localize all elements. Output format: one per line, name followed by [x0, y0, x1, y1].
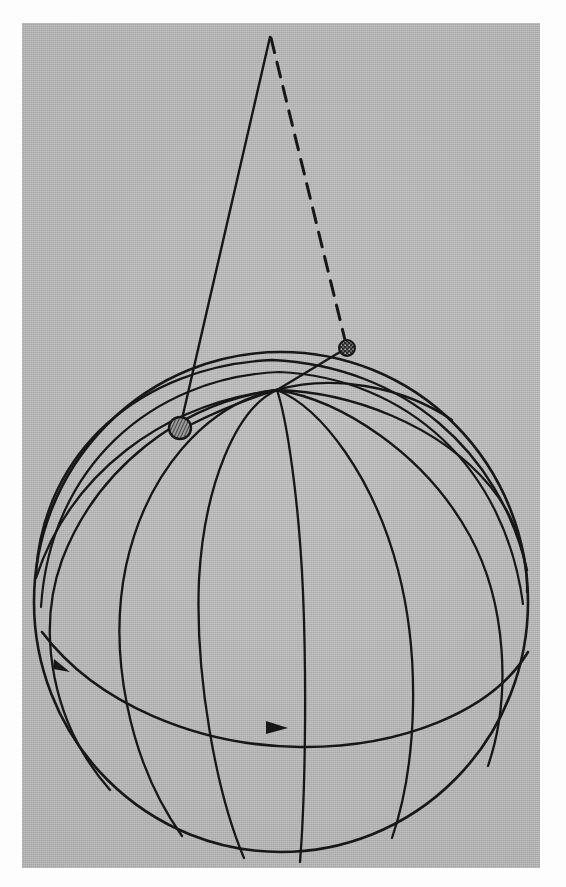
equator-arc — [42, 632, 528, 747]
hatched-disc-marker — [169, 417, 191, 439]
meridian-5 — [277, 390, 413, 838]
meridian-lines — [50, 390, 527, 862]
meridian-6 — [277, 390, 502, 766]
meridian-3 — [199, 390, 277, 858]
meridian-7 — [277, 390, 527, 592]
pole-rim-arc-right — [277, 383, 452, 420]
meridian-4 — [277, 390, 305, 862]
sphere-diagram — [0, 0, 566, 887]
figure-page: Spherical triangle construction on a glo… — [0, 0, 566, 887]
dashed-edge-apex-to-blob — [271, 38, 345, 340]
equator-arrow-right — [266, 721, 288, 734]
blob-marker — [339, 340, 355, 356]
sphere-outline — [34, 352, 528, 852]
